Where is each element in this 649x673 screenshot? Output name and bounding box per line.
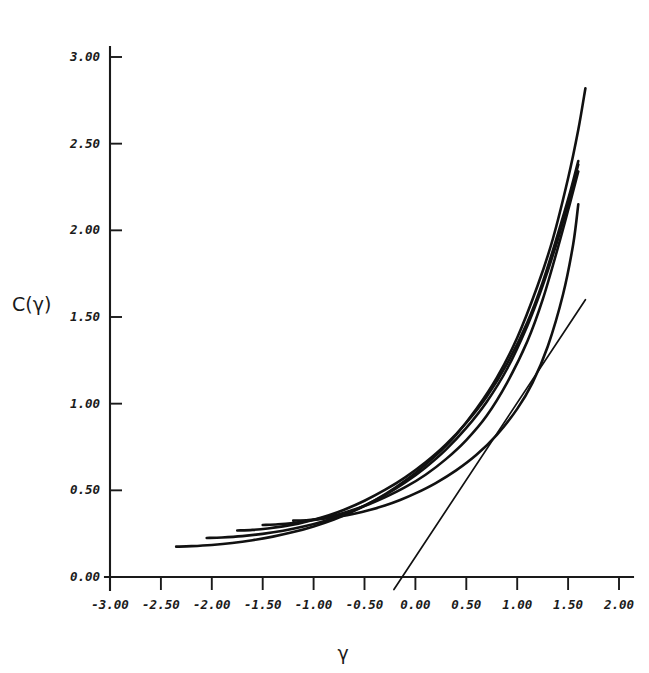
x-tick-label: 2.00 [603, 597, 634, 612]
data-curves-group [176, 88, 585, 546]
x-tick-label: -2.00 [193, 597, 231, 612]
x-tick-label: -3.00 [91, 597, 129, 612]
x-tick-group [110, 577, 619, 590]
y-tick-label: 0.50 [70, 482, 100, 497]
x-tick-label: 0.50 [451, 597, 481, 612]
x-tick-label: -0.50 [346, 597, 384, 612]
tangent-line-group [394, 300, 585, 590]
y-tick-label: 2.50 [69, 136, 100, 151]
x-tick-label: -2.50 [142, 597, 180, 612]
y-tick-label: 1.00 [70, 396, 100, 411]
x-tick-label-group: -3.00-2.50-2.00-1.50-1.00-0.500.000.501.… [91, 597, 634, 612]
x-tick-label: 1.50 [553, 597, 583, 612]
y-tick-label: 0.00 [70, 569, 100, 584]
x-tick-label: 1.00 [502, 597, 532, 612]
y-axis-title: C(γ) [12, 293, 51, 315]
y-tick-label: 2.00 [69, 222, 100, 237]
data-curve [176, 88, 585, 546]
chart-figure: 0.000.501.001.502.002.503.00 -3.00-2.50-… [0, 0, 649, 673]
axes-group [105, 47, 633, 590]
x-tick-label: 0.00 [400, 597, 430, 612]
data-curve [237, 161, 578, 531]
y-tick-group [110, 57, 122, 577]
y-tick-label-group: 0.000.501.001.502.002.503.00 [69, 49, 100, 584]
y-tick-label: 1.50 [70, 309, 100, 324]
tangent-line-extension [394, 300, 585, 590]
x-tick-label: -1.50 [244, 597, 282, 612]
x-tick-label: -1.00 [295, 597, 333, 612]
y-tick-label: 3.00 [69, 49, 100, 64]
x-axis-title: γ [337, 642, 348, 664]
chart-svg: 0.000.501.001.502.002.503.00 -3.00-2.50-… [0, 0, 649, 673]
data-curve [293, 204, 578, 520]
